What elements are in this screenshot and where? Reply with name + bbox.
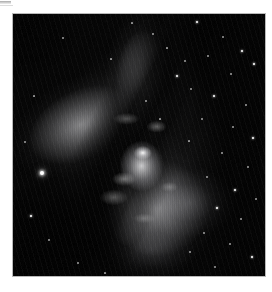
- star: [232, 126, 233, 127]
- star: [213, 95, 215, 97]
- star: [110, 58, 111, 59]
- nebula-striations: [13, 14, 265, 276]
- star: [190, 88, 191, 89]
- star: [201, 118, 203, 120]
- star-field: [13, 14, 265, 276]
- star: [48, 239, 49, 240]
- star: [104, 272, 105, 273]
- photographic-grain: [13, 14, 265, 276]
- star: [24, 141, 25, 142]
- star: [33, 95, 34, 96]
- nebula-lower-left-ridge: [13, 14, 265, 276]
- central-core-glow: [13, 14, 265, 276]
- star: [234, 189, 236, 191]
- star: [245, 104, 246, 105]
- star: [240, 218, 241, 219]
- nebula-lower-skirt: [13, 14, 265, 276]
- star: [77, 262, 79, 264]
- star: [159, 118, 160, 119]
- sky-background: [13, 14, 265, 276]
- star: [62, 37, 63, 38]
- star: [145, 100, 146, 101]
- star: [221, 152, 222, 153]
- star: [222, 36, 224, 38]
- nebula-upper-lobe: [13, 14, 265, 276]
- star: [216, 207, 218, 209]
- star: [176, 75, 178, 77]
- star: [207, 55, 208, 56]
- star: [203, 232, 205, 234]
- star: [196, 21, 198, 23]
- nebula-lower-lobe: [13, 14, 265, 276]
- dust-lane: [13, 14, 265, 276]
- star: [40, 171, 45, 176]
- nebula-upper-right-wisp: [13, 14, 265, 276]
- star: [230, 73, 231, 74]
- star: [241, 50, 243, 52]
- bipolar-nebula-photograph: [12, 13, 266, 277]
- cropped-rule-fragment-icon: [0, 1, 11, 4]
- nebula-upper-left-lobe: [13, 14, 265, 276]
- star: [30, 215, 32, 217]
- star: [152, 33, 153, 34]
- star: [206, 176, 207, 177]
- nebula-filaments: [13, 14, 265, 276]
- star: [255, 198, 257, 200]
- nebula-bright-knots: [13, 14, 265, 276]
- star: [188, 140, 189, 141]
- star: [252, 137, 254, 139]
- page-root: [0, 0, 272, 292]
- star: [247, 166, 249, 168]
- star: [229, 243, 230, 244]
- dark-region-lower-left: [13, 14, 265, 276]
- central-waist: [13, 14, 265, 276]
- cropped-rule-fragment-secondary-icon: [0, 5, 13, 6]
- dark-region-upper-left: [13, 14, 265, 276]
- star: [253, 63, 255, 65]
- dark-region-right: [13, 14, 265, 276]
- nebula-outer-halo: [13, 14, 265, 276]
- star: [251, 256, 253, 258]
- nebula-lower-right-fan: [13, 14, 265, 276]
- star: [184, 60, 186, 62]
- star: [189, 251, 190, 252]
- star: [131, 22, 132, 23]
- star: [214, 266, 216, 268]
- star: [166, 47, 167, 48]
